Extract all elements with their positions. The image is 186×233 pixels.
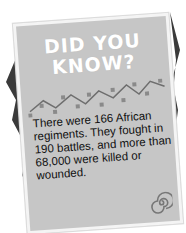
fact-card: DID YOU KNOW? There were 166 African reg… bbox=[13, 13, 183, 233]
did-you-know-graphic: DID YOU KNOW? There were 166 African reg… bbox=[0, 0, 186, 233]
fact-text: There were 166 African regiments. They f… bbox=[32, 108, 176, 183]
spiral-icon bbox=[150, 191, 173, 214]
card-title: DID YOU KNOW? bbox=[17, 28, 170, 80]
